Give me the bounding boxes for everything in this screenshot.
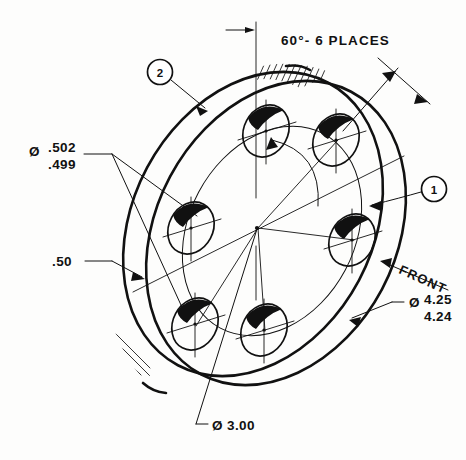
hole-diameter-lower: .499 bbox=[48, 157, 76, 172]
drawing-sheet: 60°- 6 PLACES Ø .502 .499 .50 Ø 4.25 4.2… bbox=[0, 0, 466, 460]
hole-center-dot bbox=[262, 328, 265, 331]
hole-center-dot bbox=[264, 129, 267, 132]
sheet-background bbox=[0, 0, 466, 460]
thickness-value: .50 bbox=[52, 254, 72, 269]
outer-diameter-upper: 4.25 bbox=[424, 292, 452, 307]
hole-diameter-symbol: Ø bbox=[29, 144, 40, 159]
technical-drawing-canvas: 60°- 6 PLACES Ø .502 .499 .50 Ø 4.25 4.2… bbox=[0, 0, 466, 460]
balloon-1-label: 1 bbox=[431, 184, 438, 196]
hole-center-dot bbox=[350, 238, 353, 241]
hole-center-dot bbox=[193, 322, 196, 325]
outer-diameter-lower: 4.24 bbox=[424, 309, 452, 324]
hole-center-dot bbox=[189, 226, 192, 229]
balloon-2-label: 2 bbox=[157, 67, 163, 79]
bolt-circle-text: Ø 3.00 bbox=[212, 418, 255, 433]
outer-diameter-symbol: Ø bbox=[409, 295, 420, 310]
hole-diameter-upper: .502 bbox=[48, 140, 76, 155]
angle-note-text: 60°- 6 PLACES bbox=[281, 33, 390, 48]
hole-center-dot bbox=[334, 138, 337, 141]
